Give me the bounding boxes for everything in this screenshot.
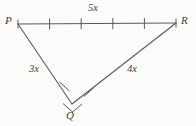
vertex-label-R: R [181,15,188,26]
tick-mark-pq [60,82,70,91]
side-label-PR: 5x [88,3,98,14]
side-QR [72,23,176,104]
side-PQ [18,24,72,104]
vertex-label-Q: Q [66,110,74,121]
vertex-label-P: P [5,15,12,26]
side-label-PQ: 3x [29,64,39,75]
tick-mark-qr [84,88,94,97]
side-PR [18,23,176,24]
geometry-figure: P R Q 5x 3x 4x [0,0,196,126]
side-label-QR: 4x [127,64,137,75]
